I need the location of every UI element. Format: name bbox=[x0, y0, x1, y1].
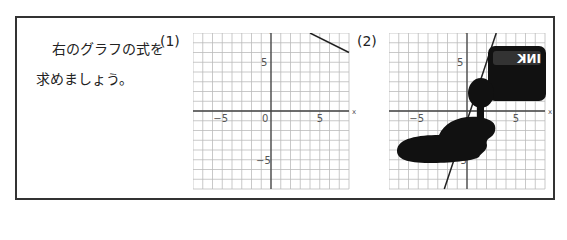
tick-x-neg: −5 bbox=[409, 113, 424, 124]
tick-y-pos: 5 bbox=[457, 57, 463, 68]
tick-x-pos: 5 bbox=[317, 113, 323, 124]
graph-1: xy−5505−5 bbox=[193, 33, 363, 195]
ink-spill: INK bbox=[397, 46, 546, 163]
ink-stream bbox=[477, 99, 484, 121]
graph-1-canvas: xy−5505−5 bbox=[193, 33, 363, 195]
prompt-line-2: 求めましょう。 bbox=[36, 64, 164, 94]
graph-2-canvas: xy−555−5INK bbox=[389, 33, 559, 195]
graph-1-label: (1) bbox=[160, 33, 180, 49]
prompt-line-1: 右のグラフの式を bbox=[36, 34, 164, 64]
tick-x-neg: −5 bbox=[213, 113, 228, 124]
graph-2: xy−555−5INK bbox=[389, 33, 559, 195]
tick-y-neg: −5 bbox=[256, 155, 271, 166]
y-axis-label: y bbox=[269, 33, 273, 34]
tick-y-pos: 5 bbox=[261, 57, 267, 68]
tick-origin: 0 bbox=[262, 113, 268, 124]
y-axis-label: y bbox=[465, 33, 469, 34]
x-axis-label: x bbox=[548, 108, 552, 116]
x-axis-label: x bbox=[352, 108, 356, 116]
question-prompt: 右のグラフの式を 求めましょう。 bbox=[36, 34, 164, 94]
tick-x-pos: 5 bbox=[513, 113, 519, 124]
ink-bottle-text: INK bbox=[516, 52, 541, 66]
